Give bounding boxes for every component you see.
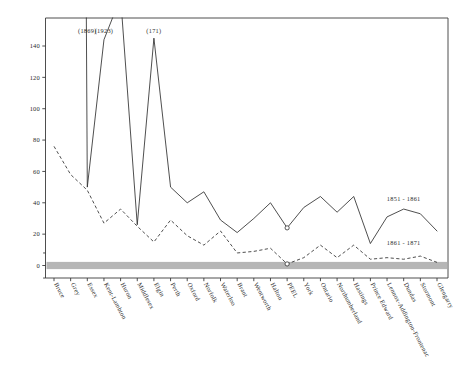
chart-annotation-label: 1851 - 1861 xyxy=(387,195,421,202)
chart-annotation-label: (171) xyxy=(146,27,161,35)
chart-background xyxy=(0,0,463,383)
y-tick-label: 60 xyxy=(33,168,40,175)
y-tick-label: 140 xyxy=(30,42,40,49)
chart-svg: 020406080100120140 (1869)(1923)(171)1851… xyxy=(0,0,463,383)
chart-figure: 020406080100120140 (1869)(1923)(171)1851… xyxy=(0,0,463,383)
y-tick-label: 20 xyxy=(33,230,40,237)
chart-annotation-label: 1861 - 1871 xyxy=(387,239,421,246)
data-point-marker xyxy=(285,262,289,266)
y-tick-label: 80 xyxy=(33,136,40,143)
y-tick-label: 100 xyxy=(30,105,40,112)
reference-band xyxy=(47,262,448,269)
y-tick-label: 0 xyxy=(37,262,40,269)
chart-annotation-label: (1923) xyxy=(95,27,114,35)
data-point-marker xyxy=(285,226,289,230)
zero-reference-band xyxy=(47,262,448,269)
y-tick-label: 40 xyxy=(33,199,40,206)
y-tick-label: 120 xyxy=(30,74,40,81)
